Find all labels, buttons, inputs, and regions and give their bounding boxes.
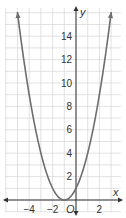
x-tick-label: −2 — [47, 204, 59, 215]
x-axis-label: x — [112, 186, 119, 198]
y-tick-label: 4 — [66, 148, 72, 159]
y-axis-label: y — [79, 6, 87, 18]
y-tick-label: 6 — [66, 124, 72, 135]
y-tick-label: 14 — [61, 31, 73, 42]
y-tick-label: 12 — [61, 54, 73, 65]
x-tick-label: 2 — [97, 204, 103, 215]
x-tick-label: −4 — [23, 204, 35, 215]
y-tick-label: 2 — [66, 171, 72, 182]
y-tick-label: 10 — [61, 78, 73, 89]
y-tick-label: 8 — [66, 101, 72, 112]
tick-labels: −4−222468101214 — [23, 31, 102, 215]
parabola-chart: −4−222468101214 x y O — [0, 0, 126, 218]
origin-label: O — [66, 203, 75, 215]
